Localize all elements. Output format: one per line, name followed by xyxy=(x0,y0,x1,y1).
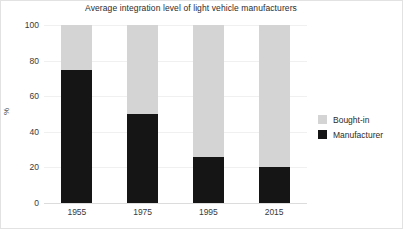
bar-stack[interactable] xyxy=(127,25,158,203)
legend-swatch-icon xyxy=(318,115,327,124)
axis-baseline xyxy=(44,203,307,204)
bar-segment-manufacturer[interactable] xyxy=(259,167,290,203)
bar-stack[interactable] xyxy=(61,25,92,203)
bar-stack[interactable] xyxy=(259,25,290,203)
chart-title: Average integration level of light vehic… xyxy=(31,3,351,13)
bar-stack[interactable] xyxy=(193,25,224,203)
legend-item[interactable]: Bought-in xyxy=(318,112,402,127)
x-tick-label: 2015 xyxy=(244,207,304,217)
legend-label: Manufacturer xyxy=(333,130,383,140)
y-tick-label: 80 xyxy=(5,56,39,66)
bar-segment-bought-in[interactable] xyxy=(61,25,92,70)
bar-segment-bought-in[interactable] xyxy=(127,25,158,114)
y-tick-label: 100 xyxy=(5,20,39,30)
legend-item[interactable]: Manufacturer xyxy=(318,127,402,142)
chart-figure: Average integration level of light vehic… xyxy=(0,0,403,229)
bar-segment-manufacturer[interactable] xyxy=(61,70,92,204)
bar-segment-bought-in[interactable] xyxy=(259,25,290,167)
y-tick-label: 40 xyxy=(5,127,39,137)
x-tick-label: 1955 xyxy=(47,207,107,217)
y-tick-label: 60 xyxy=(5,91,39,101)
y-tick-label: 20 xyxy=(5,162,39,172)
plot-area xyxy=(44,25,307,203)
legend-label: Bought-in xyxy=(333,115,369,125)
chart-legend: Bought-inManufacturer xyxy=(318,112,402,142)
legend-swatch-icon xyxy=(318,130,327,139)
bar-segment-bought-in[interactable] xyxy=(193,25,224,157)
y-tick-label: 0 xyxy=(5,198,39,208)
x-axis-tick-labels: 1955197519952015 xyxy=(44,207,307,223)
y-axis-tick-labels: 020406080100 xyxy=(1,25,39,203)
x-tick-label: 1975 xyxy=(113,207,173,217)
x-tick-label: 1995 xyxy=(178,207,238,217)
bar-segment-manufacturer[interactable] xyxy=(193,157,224,203)
bar-segment-manufacturer[interactable] xyxy=(127,114,158,203)
